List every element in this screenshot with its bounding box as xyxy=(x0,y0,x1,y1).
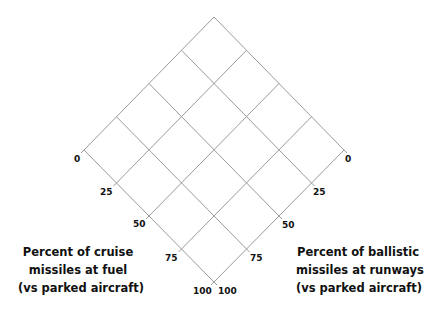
left-tick-0: 0 xyxy=(74,155,80,164)
right-tick-mark-2 xyxy=(279,216,282,219)
left-tick-50: 50 xyxy=(133,220,146,229)
right-tick-mark-1 xyxy=(312,183,315,186)
right-tick-mark-0 xyxy=(344,150,347,153)
right-tick-100: 100 xyxy=(218,287,237,296)
right-tick-75: 75 xyxy=(250,254,263,263)
right-tick-25: 25 xyxy=(313,188,326,197)
left-tick-mark-4 xyxy=(211,282,214,285)
left-tick-mark-0 xyxy=(81,150,84,153)
right-axis-title: Percent of ballistic missiles at runways… xyxy=(296,243,420,297)
right-tick-50: 50 xyxy=(282,221,295,230)
right-tick-0: 0 xyxy=(345,155,351,164)
left-tick-75: 75 xyxy=(165,254,178,263)
right-axis-title-line-1: Percent of ballistic xyxy=(296,243,420,261)
left-axis-title-line-1: Percent of cruise xyxy=(18,243,138,261)
right-axis-title-line-2: missiles at runways xyxy=(296,261,420,279)
right-tick-mark-4 xyxy=(214,282,217,285)
left-axis-title: Percent of cruise missiles at fuel (vs p… xyxy=(18,243,138,297)
left-tick-25: 25 xyxy=(100,188,113,197)
left-tick-100: 100 xyxy=(193,287,212,296)
right-axis-title-line-3: (vs parked aircraft) xyxy=(296,279,420,297)
left-tick-mark-3 xyxy=(179,249,182,252)
left-tick-mark-2 xyxy=(146,216,149,219)
left-axis-title-line-3: (vs parked aircraft) xyxy=(18,279,138,297)
right-tick-mark-3 xyxy=(247,249,250,252)
left-axis-title-line-2: missiles at fuel xyxy=(18,261,138,279)
left-tick-mark-1 xyxy=(114,183,117,186)
